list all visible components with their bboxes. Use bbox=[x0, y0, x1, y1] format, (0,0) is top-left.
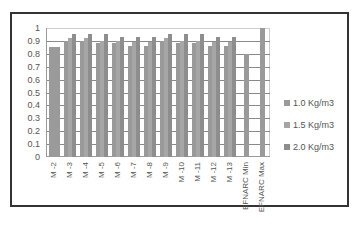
y-tick-label: 0.6 bbox=[12, 75, 40, 85]
y-tick-label: 0 bbox=[12, 152, 40, 162]
x-tick-label: M -6 bbox=[113, 162, 122, 178]
x-tick-label: M -10 bbox=[177, 162, 186, 182]
legend: 1.0 Kg/m3 1.5 Kg/m3 2.0 Kg/m3 bbox=[284, 92, 334, 158]
bar bbox=[136, 37, 140, 157]
y-tick-label: 0.9 bbox=[12, 36, 40, 46]
bar bbox=[72, 34, 76, 157]
x-tick-label: M -7 bbox=[129, 162, 138, 178]
legend-item: 2.0 Kg/m3 bbox=[284, 136, 334, 158]
legend-label: 2.0 Kg/m3 bbox=[293, 142, 334, 152]
gridline bbox=[46, 28, 270, 29]
x-tick-label: M -11 bbox=[193, 162, 202, 182]
legend-label: 1.0 Kg/m3 bbox=[293, 98, 334, 108]
x-tick-label: M -5 bbox=[97, 162, 106, 178]
legend-item: 1.5 Kg/m3 bbox=[284, 114, 334, 136]
legend-label: 1.5 Kg/m3 bbox=[293, 120, 334, 130]
bar bbox=[184, 34, 188, 157]
x-tick-label: M -9 bbox=[161, 162, 170, 178]
y-tick-label: 0.3 bbox=[12, 113, 40, 123]
legend-swatch-icon bbox=[284, 100, 290, 106]
y-tick-label: 0.1 bbox=[12, 139, 40, 149]
y-tick-label: 0.8 bbox=[12, 49, 40, 59]
legend-swatch-icon bbox=[284, 122, 290, 128]
bar bbox=[120, 37, 124, 157]
bar bbox=[232, 37, 236, 157]
x-tick-label: M -3 bbox=[65, 162, 74, 178]
x-tick-label: M -8 bbox=[145, 162, 154, 178]
bar bbox=[88, 34, 92, 157]
x-tick-label: M -4 bbox=[81, 162, 90, 178]
y-tick-label: 0.7 bbox=[12, 62, 40, 72]
bar bbox=[216, 37, 220, 157]
y-tick-label: 1 bbox=[12, 23, 40, 33]
y-tick-label: 0.2 bbox=[12, 126, 40, 136]
bar bbox=[200, 34, 204, 157]
x-tick-label: M -2 bbox=[49, 162, 58, 178]
legend-item: 1.0 Kg/m3 bbox=[284, 92, 334, 114]
y-tick-label: 0.4 bbox=[12, 100, 40, 110]
x-tick-label: EFNARC Max bbox=[257, 162, 266, 212]
bar bbox=[244, 54, 249, 157]
chart-frame: 00.10.20.30.40.50.60.70.80.91 M -2M -3M … bbox=[10, 12, 349, 207]
bar bbox=[49, 47, 60, 157]
bar bbox=[260, 28, 265, 157]
y-axis bbox=[46, 28, 47, 157]
legend-swatch-icon bbox=[284, 144, 290, 150]
bar bbox=[104, 34, 108, 157]
x-tick-label: M -12 bbox=[209, 162, 218, 182]
plot-area: 00.10.20.30.40.50.60.70.80.91 bbox=[46, 28, 270, 157]
bar bbox=[168, 34, 172, 157]
x-tick-label: M -13 bbox=[225, 162, 234, 182]
bar bbox=[152, 37, 156, 157]
y-tick-label: 0.5 bbox=[12, 88, 40, 98]
x-tick-label: EFNARC Min bbox=[241, 162, 250, 210]
